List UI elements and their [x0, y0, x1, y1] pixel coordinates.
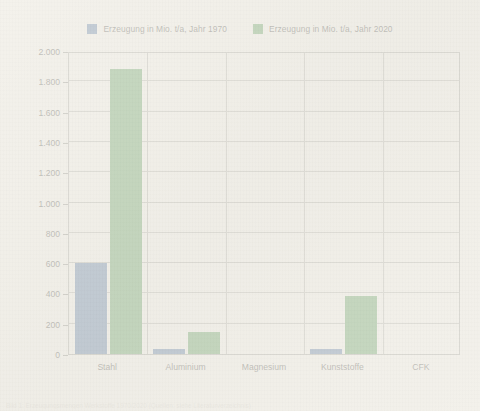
bar: [110, 69, 142, 354]
y-axis-tick-label: 400: [0, 289, 60, 299]
y-axis-tick-label: 200: [0, 320, 60, 330]
y-axis-tick-label: 800: [0, 229, 60, 239]
y-axis-tick-mark: [63, 355, 68, 356]
y-axis-tick-label: 2.000: [0, 47, 60, 57]
plot-area: [68, 52, 460, 355]
y-axis-tick-label: 1.600: [0, 108, 60, 118]
figure-caption: Bild 1: Erzeugungsmengen Werkstoffe 1970…: [6, 402, 446, 409]
x-axis-tick-label: Stahl: [97, 362, 117, 372]
bar: [188, 332, 220, 354]
bars-layer: [69, 53, 459, 354]
legend-entry: Erzeugung in Mio. t/a, Jahr 1970: [87, 24, 227, 34]
x-axis-tick-label: CFK: [412, 362, 429, 372]
y-axis-tick-label: 1.800: [0, 77, 60, 87]
bar: [310, 349, 342, 354]
plot-inner: [69, 53, 459, 354]
legend-label: Erzeugung in Mio. t/a, Jahr 2020: [269, 24, 393, 34]
legend-entry: Erzeugung in Mio. t/a, Jahr 2020: [253, 24, 393, 34]
legend-swatch-icon: [253, 24, 263, 34]
x-axis-tick-label: Kunststoffe: [321, 362, 364, 372]
legend-label: Erzeugung in Mio. t/a, Jahr 1970: [103, 24, 227, 34]
chart-legend: Erzeugung in Mio. t/a, Jahr 1970Erzeugun…: [0, 24, 480, 34]
y-axis-tick-label: 600: [0, 259, 60, 269]
bar-chart-figure: Erzeugung in Mio. t/a, Jahr 1970Erzeugun…: [0, 0, 480, 411]
legend-swatch-icon: [87, 24, 97, 34]
bar: [153, 349, 185, 354]
bar: [345, 296, 377, 354]
x-axis-tick-label: Magnesium: [242, 362, 286, 372]
y-axis-tick-label: 1.400: [0, 138, 60, 148]
y-axis-tick-label: 1.000: [0, 199, 60, 209]
x-axis-tick-label: Aluminium: [166, 362, 206, 372]
y-axis-tick-label: 1.200: [0, 168, 60, 178]
bar: [75, 263, 107, 354]
y-axis-tick-label: 0: [0, 350, 60, 360]
